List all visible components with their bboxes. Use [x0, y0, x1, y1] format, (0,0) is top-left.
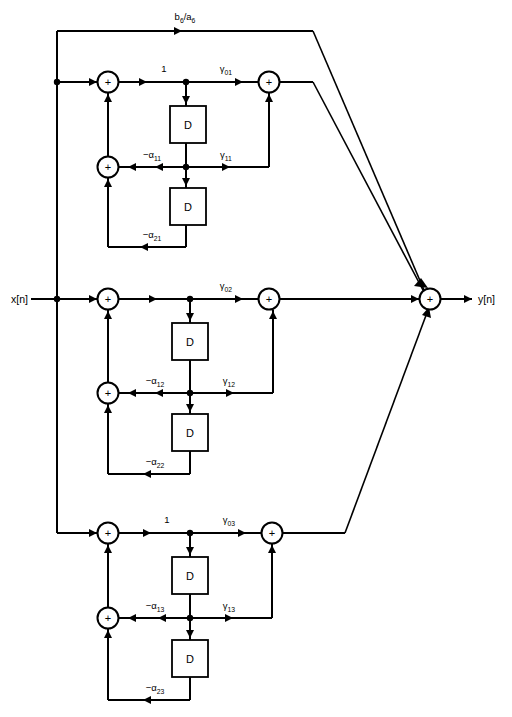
arrowhead-s2-alpha1 [128, 389, 136, 397]
arrowhead-s2-alpha2-up [104, 405, 112, 413]
gamma-label-s3-1: γ13 [223, 600, 236, 613]
alpha-label-s3-1: −α13 [146, 600, 165, 613]
arrowhead-global-ff-in [414, 278, 428, 288]
adder-s2-fb-symbol: + [105, 387, 111, 399]
gamma-label-s2-0: γ02 [220, 280, 233, 293]
adder-s3-fb-symbol: + [105, 612, 111, 624]
output-label: y[n] [478, 293, 495, 305]
arrowhead-s3-gain1 [143, 529, 151, 537]
arrowhead-s3-in [89, 529, 97, 537]
arrowhead-s2-gain1 [149, 295, 157, 303]
section-2-group: + γ02 + D −α12 γ12 + [57, 280, 419, 478]
alpha-label-s1-2: −α21 [143, 229, 162, 242]
delay-block-s2-2-label: D [186, 427, 194, 439]
arrowhead-s1-d1-in [182, 96, 190, 104]
output-adder-symbol: + [427, 293, 433, 305]
arrowhead-s2-gamma1-up [269, 311, 277, 319]
alpha-label-s2-1: −α12 [146, 375, 165, 388]
signal-flow-diagram: + 1 γ01 + D −α11 [0, 0, 512, 717]
adder-s3-out-symbol: + [269, 527, 275, 539]
arrowhead-s1-in [89, 78, 97, 86]
adder-s1-fb-symbol: + [105, 161, 111, 173]
input-bus [31, 31, 60, 533]
arrowhead-s1-alpha2-up [104, 179, 112, 187]
section-1-group: + 1 γ01 + D −α11 [57, 63, 424, 292]
arrowhead-s2-in [89, 295, 97, 303]
alpha-label-s2-2: −α22 [146, 456, 165, 469]
gamma-label-s1-1: γ11 [220, 149, 232, 162]
section-3-group: + 1 γ03 + D −α13 γ13 [57, 307, 431, 704]
arrowhead-s2-alpha2 [143, 470, 151, 478]
arrowhead-s2-fb-up [104, 311, 112, 319]
input-label: x[n] [11, 293, 28, 305]
arrowhead-s1-alpha1-b [155, 163, 163, 171]
flow-graph-canvas: + 1 γ01 + D −α11 [0, 0, 512, 717]
delay-block-s2-1-label: D [186, 336, 194, 348]
arrowhead-s2-gamma0 [235, 295, 243, 303]
delay-block-s3-1-label: D [186, 570, 194, 582]
arrowhead-s1-alpha1 [128, 163, 136, 171]
alpha-label-s1-1: −α11 [143, 149, 161, 162]
gain-label-s3: 1 [164, 514, 169, 525]
arrowhead-s2-to-sum [411, 295, 419, 303]
arrowhead-s1-alpha2 [140, 243, 148, 251]
arrowhead-s3-alpha1 [128, 614, 136, 622]
arrowhead-s1-d2-in [182, 178, 190, 186]
adder-s3-top-symbol: + [105, 527, 111, 539]
delay-block-s3-2-label: D [186, 653, 194, 665]
gamma-label-s3-0: γ03 [223, 514, 236, 527]
arrowhead-s3-alpha2-up [104, 630, 112, 638]
adder-s2-top-symbol: + [105, 293, 111, 305]
arrowhead-s2-gamma1 [226, 389, 234, 397]
arrowhead-output [464, 295, 472, 303]
arrowhead-s1-fb-up [104, 94, 112, 102]
arrowhead-s1-gamma1 [222, 163, 230, 171]
gamma-label-s1-0: γ01 [220, 63, 233, 76]
arrowhead-global-ff [174, 27, 182, 35]
global-gain-label: b6/a6 [175, 11, 196, 24]
arrowhead-s3-alpha2 [143, 696, 151, 704]
output-summing-junction-group: + [414, 278, 472, 310]
adder-s1-out-symbol: + [266, 76, 272, 88]
arrowhead-s2-d1-in [186, 313, 194, 321]
adder-s2-out-symbol: + [266, 293, 272, 305]
gain-label-s1: 1 [161, 63, 166, 74]
alpha-label-s3-2: −α23 [146, 682, 165, 695]
arrowhead-s1-gain1 [139, 78, 147, 86]
arrowhead-s1-gamma1-up [265, 94, 273, 102]
arrowhead-s3-gamma1-up [268, 545, 276, 553]
arrowhead-s1-gamma0 [235, 78, 243, 86]
arrowhead-s3-d2-in [186, 630, 194, 638]
arrowhead-s3-d1-in [186, 547, 194, 555]
arrowhead-s3-gamma1 [225, 614, 233, 622]
delay-block-s1-1-label: D [184, 119, 192, 131]
arrowhead-s3-gamma0 [238, 529, 246, 537]
delay-block-s1-2-label: D [184, 201, 192, 213]
arrowhead-s3-fb-up [104, 545, 112, 553]
arrowhead-s2-alpha1-b [155, 389, 163, 397]
gamma-label-s2-1: γ12 [223, 375, 236, 388]
arrowhead-s3-alpha1-b [158, 614, 166, 622]
arrowhead-s2-d2-in [186, 404, 194, 412]
adder-s1-top-symbol: + [105, 76, 111, 88]
